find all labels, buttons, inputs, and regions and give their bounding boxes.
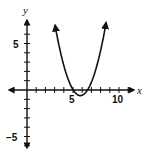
y-tick-label-5: 5	[13, 39, 19, 50]
x-tick-label-5: 5	[69, 94, 75, 105]
coordinate-graph: y x 5 10 5 −5	[0, 0, 149, 158]
x-axis-label: x	[136, 84, 142, 96]
x-tick-label-10: 10	[112, 94, 124, 105]
y-axis-label: y	[22, 4, 28, 16]
parabola-curve	[55, 23, 106, 96]
y-tick-label-neg5: −5	[6, 132, 18, 143]
